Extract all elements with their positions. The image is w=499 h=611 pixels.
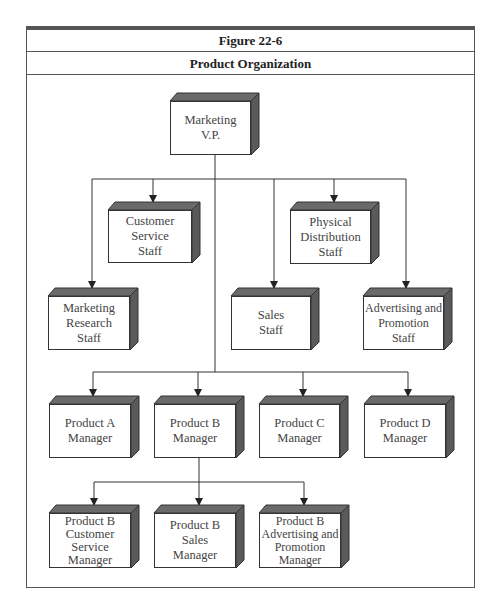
node-label: Advertising and Promotion Staff [365,301,442,346]
node-label: Product C Manager [274,416,324,446]
node-marketing-vp: Marketing V.P. [170,101,251,155]
node-advertising-promotion-staff: Advertising and Promotion Staff [363,296,444,350]
node-label: Customer Service Staff [126,214,175,259]
node-label: Sales Staff [258,308,284,338]
node-customer-service-staff: Customer Service Staff [108,210,192,263]
node-marketing-research-staff: Marketing Research Staff [48,296,130,350]
node-sales-staff: Sales Staff [231,296,311,350]
node-product-a-manager: Product A Manager [49,404,131,458]
node-pb-advertising-promotion-manager: Product B Advertising and Promotion Mana… [259,513,341,568]
node-label: Product B Manager [170,416,220,446]
node-label: Product D Manager [379,416,430,446]
node-label: Product B Sales Manager [170,518,220,563]
node-pb-customer-service-manager: Product B Customer Service Manager [49,513,131,568]
node-pb-sales-manager: Product B Sales Manager [154,513,236,568]
node-product-b-manager: Product B Manager [154,404,236,458]
node-label: Product B Customer Service Manager [65,515,115,567]
node-label: Marketing Research Staff [63,301,115,346]
node-label: Product B Advertising and Promotion Mana… [262,515,339,567]
node-product-d-manager: Product D Manager [364,404,446,458]
node-label: Marketing V.P. [184,113,236,143]
node-product-c-manager: Product C Manager [259,404,340,458]
node-physical-distribution-staff: Physical Distribution Staff [290,210,371,264]
node-label: Product A Manager [65,416,115,446]
node-label: Physical Distribution Staff [300,215,360,260]
